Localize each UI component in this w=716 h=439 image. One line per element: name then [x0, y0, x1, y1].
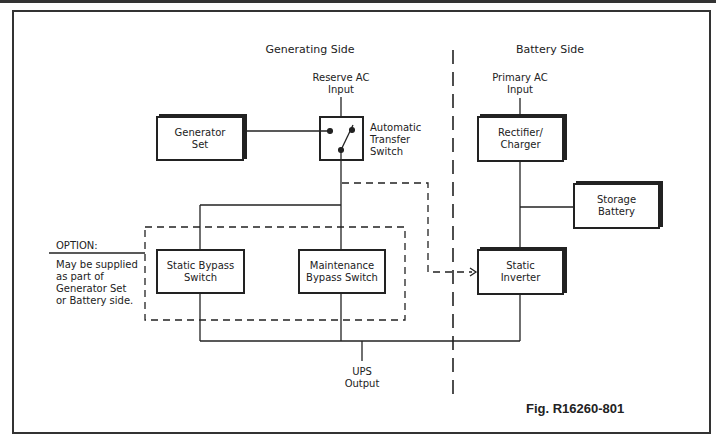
option-title: OPTION:	[56, 240, 136, 252]
automatic-transfer-switch-block	[319, 116, 364, 161]
generating-side-heading: Generating Side	[240, 44, 380, 56]
storage-battery-block: Storage Battery	[573, 183, 660, 229]
battery-side-heading: Battery Side	[490, 44, 610, 56]
static-inverter-block: Static Inverter	[477, 249, 564, 295]
reserve-ac-input-label: Reserve AC Input	[301, 72, 381, 96]
ups-output-label: UPS Output	[332, 366, 392, 390]
figure-label: Fig. R16260-801	[526, 401, 624, 416]
rectifier-charger-block: Rectifier/ Charger	[477, 116, 564, 162]
automatic-transfer-switch-label: Automatic Transfer Switch	[370, 122, 450, 158]
static-bypass-switch-block: Static Bypass Switch	[156, 249, 245, 294]
maintenance-bypass-switch-block: Maintenance Bypass Switch	[298, 249, 386, 294]
option-note-text: May be supplied as part of Generator Set…	[56, 259, 146, 307]
primary-ac-input-label: Primary AC Input	[480, 72, 560, 96]
generator-set-block: Generator Set	[156, 116, 244, 161]
